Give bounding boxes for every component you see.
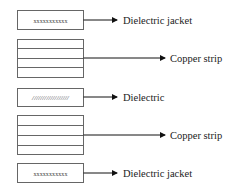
- bottom-jacket-label: Dielectric jacket: [123, 168, 192, 179]
- top-jacket-layer: xxxxxxxxxxx Dielectric jacket: [18, 11, 193, 30]
- bottom-jacket-layer: xxxxxxxxxxx Dielectric jacket: [18, 164, 193, 183]
- dielectric-layer: ////////////////// Dielectric: [18, 89, 165, 107]
- layer-diagram: xxxxxxxxxxx Dielectric jacket Copper str…: [0, 0, 239, 192]
- top-copper-label: Copper strip: [170, 53, 222, 64]
- bottom-copper-label: Copper strip: [170, 130, 222, 141]
- top-copper-layer: Copper strip: [18, 40, 223, 78]
- dielectric-hatch-text: //////////////////: [31, 94, 70, 102]
- bottom-copper-layer: Copper strip: [18, 116, 223, 155]
- top-jacket-fill-text: xxxxxxxxxxx: [33, 18, 67, 24]
- dielectric-label: Dielectric: [123, 92, 165, 103]
- bottom-jacket-fill-text: xxxxxxxxxxx: [33, 171, 67, 177]
- top-jacket-label: Dielectric jacket: [123, 15, 192, 26]
